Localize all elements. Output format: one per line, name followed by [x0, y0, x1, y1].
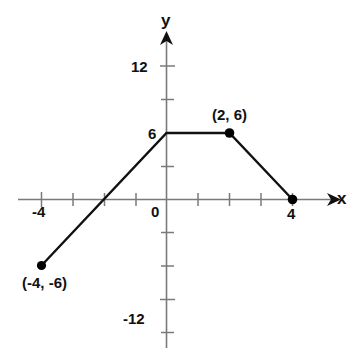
data-point-marker	[225, 128, 235, 138]
data-point-marker	[37, 261, 46, 270]
y-tick-label-6: 6	[148, 126, 156, 141]
point-label-neg4-neg6: (-4, -6)	[22, 275, 67, 290]
x-axis-label: x	[337, 190, 346, 207]
coordinate-plane-svg	[0, 0, 361, 358]
x-tick-label-4: 4	[287, 206, 295, 221]
point-label-2-6: (2, 6)	[212, 107, 247, 122]
y-tick-label-12: 12	[131, 59, 148, 74]
y-axis-label: y	[161, 12, 170, 29]
x-tick-label-neg4: -4	[32, 204, 45, 219]
x-tick-label-0: 0	[151, 204, 159, 219]
data-point-marker	[288, 195, 298, 205]
y-tick-label-neg12: -12	[123, 311, 145, 326]
graph-figure: y x 12 6 -12 0 -4 4 (2, 6) (-4, -6)	[0, 0, 361, 358]
